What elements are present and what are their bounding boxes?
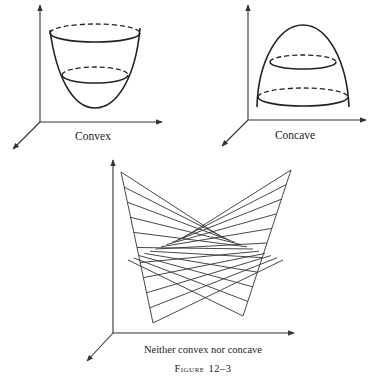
concave-mid-ellipse-back: [270, 55, 336, 62]
convex-panel: Convex: [13, 5, 162, 149]
convex-top-ellipse-back: [50, 24, 140, 33]
saddle-ruling: [134, 258, 248, 302]
convex-top-ellipse-front: [50, 33, 140, 42]
saddle-axes: [87, 160, 294, 361]
convex-label: Convex: [75, 130, 111, 142]
concave-mid-ellipse-front: [270, 62, 336, 69]
caption-prefix: Figure: [174, 363, 204, 374]
convex-mid-ellipse-front: [62, 75, 128, 83]
concave-bottom-ellipse-back: [258, 88, 348, 97]
concave-panel: Concave: [222, 5, 366, 146]
concave-x-axis: [222, 120, 248, 146]
figure-caption: Figure12–3: [174, 363, 231, 374]
saddle-ruling: [153, 260, 283, 323]
caption-number: 12–3: [209, 363, 232, 374]
saddle-panel: Neither convex nor concave: [87, 160, 294, 361]
concave-label: Concave: [275, 129, 315, 141]
concave-dome-profile: [257, 25, 349, 107]
convex-mid-ellipse-back: [62, 67, 128, 75]
figure-canvas: Convex Concave Neither convex nor concav…: [0, 0, 375, 377]
convex-x-axis: [13, 122, 40, 149]
saddle-ruling: [127, 202, 235, 242]
concave-dome: [257, 25, 349, 107]
saddle-ruling: [137, 248, 253, 250]
convex-axes: [13, 5, 162, 149]
concave-bottom-ellipse-front: [258, 97, 348, 106]
saddle-ruling: [139, 256, 253, 287]
saddle-ruling: [124, 187, 229, 240]
convex-bowl: [50, 24, 140, 108]
saddle-ruling: [143, 253, 265, 277]
saddle-ruling: [178, 185, 287, 241]
saddle-surface: [121, 170, 291, 323]
saddle-label: Neither convex nor concave: [144, 344, 262, 355]
saddle-ruling: [183, 170, 291, 238]
saddle-x-axis: [87, 333, 113, 361]
